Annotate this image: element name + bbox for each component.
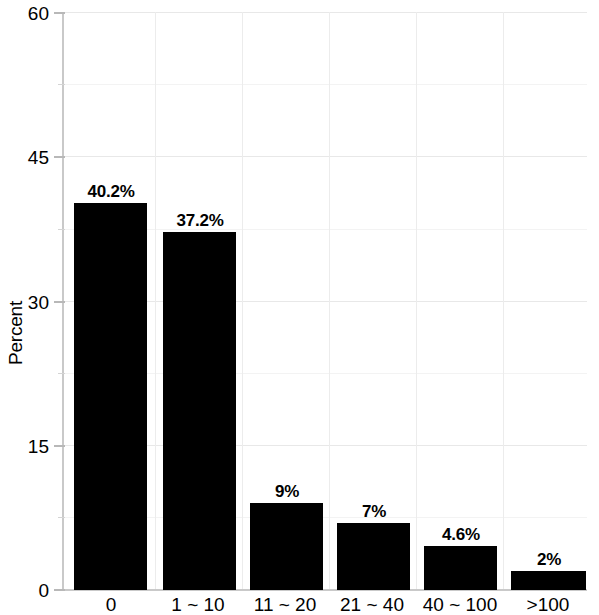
bar-value-0: 40.2% (70, 183, 152, 200)
y-tick-mark-45 (54, 156, 65, 158)
y-tick-mark-minor-3 (58, 373, 65, 374)
y-tick-mark-30 (54, 301, 65, 303)
y-tick-label-60: 60 (1, 4, 49, 23)
y-tick-mark-minor-2 (58, 229, 65, 230)
bar-value-21-40: 7% (333, 503, 415, 520)
bar-1-10[interactable] (163, 232, 236, 590)
gridline-vertical-4 (416, 12, 417, 590)
y-tick-mark-15 (54, 445, 65, 447)
bar-value-over-100: 2% (508, 551, 590, 568)
bar-value-11-20: 9% (246, 483, 328, 500)
y-tick-mark-minor-4 (58, 517, 65, 518)
x-tick-label-21-40: 21 ~ 40 (330, 594, 414, 615)
bar-11-20[interactable] (250, 503, 323, 590)
gridline-vertical-2 (242, 12, 243, 590)
bar-0[interactable] (74, 203, 147, 590)
gridline-horizontal-45 (63, 156, 587, 157)
bar-21-40[interactable] (337, 523, 410, 590)
y-axis-tick-labels: 60 45 30 15 0 (0, 0, 49, 615)
x-tick-label-over-100: >100 (505, 594, 591, 615)
x-tick-label-40-100: 40 ~ 100 (414, 594, 506, 615)
y-tick-label-45: 45 (1, 148, 49, 167)
gridline-horizontal-60 (63, 12, 587, 13)
gridline-vertical-1 (155, 12, 156, 590)
y-tick-label-15: 15 (1, 437, 49, 456)
x-tick-label-1-10: 1 ~ 10 (156, 594, 240, 615)
y-tick-label-0: 0 (1, 581, 49, 600)
gridline-horizontal-minor-1 (63, 84, 587, 85)
bar-over-100[interactable] (511, 571, 586, 590)
y-tick-label-30: 30 (1, 293, 49, 312)
y-tick-mark-0 (54, 589, 65, 591)
x-tick-label-0: 0 (69, 594, 153, 615)
bar-value-1-10: 37.2% (159, 212, 241, 229)
gridline-vertical-5 (503, 12, 504, 590)
y-tick-mark-60 (54, 12, 65, 14)
y-tick-mark-minor-1 (58, 84, 65, 85)
x-tick-label-11-20: 11 ~ 20 (243, 594, 327, 615)
bar-40-100[interactable] (424, 546, 497, 590)
bar-chart: Percent 60 45 30 15 0 40.2% 37.2% 9% 7% … (0, 0, 599, 615)
bar-value-40-100: 4.6% (420, 526, 502, 543)
gridline-vertical-3 (329, 12, 330, 590)
